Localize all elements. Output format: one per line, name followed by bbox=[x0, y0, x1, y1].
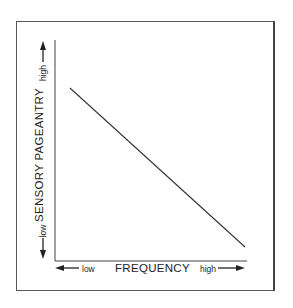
x-high-arrow-icon bbox=[218, 265, 245, 271]
x-axis-low-label: low bbox=[82, 264, 95, 274]
y-axis-title: SENSORY PAGEANTRY bbox=[33, 80, 45, 230]
y-axis-high-label: high bbox=[38, 58, 48, 88]
trend-line bbox=[70, 88, 245, 247]
x-axis-title: FREQUENCY bbox=[115, 262, 190, 274]
x-axis-high-label: high bbox=[200, 264, 216, 274]
y-axis-low-label: low bbox=[38, 216, 48, 246]
x-low-arrow-icon bbox=[55, 265, 79, 271]
